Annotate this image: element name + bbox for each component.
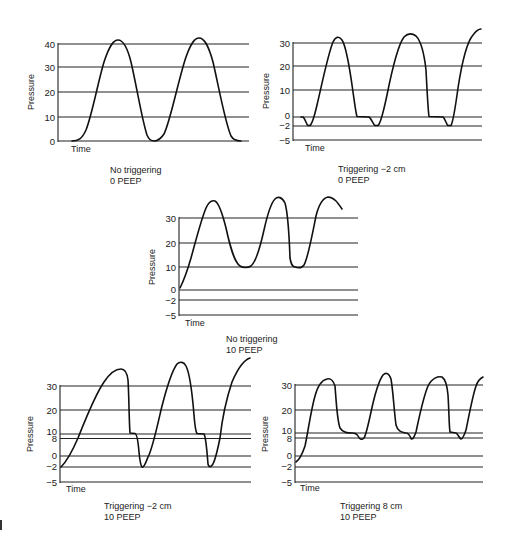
caption-peep: 0 PEEP <box>338 175 405 186</box>
caption-peep: 10 PEEP <box>104 512 171 523</box>
caption-panel-1: No triggering 0 PEEP <box>110 165 162 187</box>
caption-title: Triggering −2 cm <box>338 164 405 175</box>
y-axis-label: Pressure <box>26 74 36 110</box>
caption-title: Triggering 8 cm <box>340 501 402 512</box>
panel-no-triggering-10-peep: 30 20 10 0 −2 −5 Pressure Time <box>147 197 358 328</box>
tick-label: 10 <box>165 262 176 273</box>
tick-label: 0 <box>50 136 55 147</box>
y-axis-label: Pressure <box>261 73 271 109</box>
tick-label: −2 <box>279 120 290 131</box>
tick-label: −5 <box>46 477 57 488</box>
tick-label: 20 <box>46 405 57 416</box>
tick-label: 8 <box>287 433 292 444</box>
tick-label: −5 <box>165 310 176 321</box>
tick-label: 30 <box>281 380 292 391</box>
tick-label: −2 <box>46 461 57 472</box>
tick-label: 30 <box>279 38 290 49</box>
tick-label: 20 <box>165 238 176 249</box>
x-axis-label: Time <box>300 483 320 493</box>
tick-label: −5 <box>279 135 290 146</box>
tick-label: 40 <box>44 39 55 50</box>
caption-panel-3: No triggering 10 PEEP <box>226 334 278 356</box>
tick-label: 8 <box>52 433 57 444</box>
tick-label: 30 <box>44 62 55 73</box>
caption-title: No triggering <box>110 165 162 176</box>
panel-no-triggering-0-peep: 40 30 20 10 0 Pressure Time <box>26 38 249 154</box>
tick-label: 30 <box>165 213 176 224</box>
tick-label: 10 <box>279 85 290 96</box>
panel-triggering-8-10-peep: 30 20 10 8 0 −2 −5 Pressure Time <box>260 373 483 493</box>
pressure-curve <box>72 38 241 141</box>
x-axis-label: Time <box>305 143 325 153</box>
tick-label: 20 <box>44 87 55 98</box>
caption-panel-2: Triggering −2 cm 0 PEEP <box>338 164 405 186</box>
tick-label: −2 <box>165 295 176 306</box>
caption-title: Triggering −2 cm <box>104 501 171 512</box>
panel-triggering-minus2-10-peep: 30 20 10 8 0 −2 −5 Pressure Time <box>25 358 251 494</box>
x-axis-label: Time <box>185 318 205 328</box>
panel-triggering-minus2-0-peep: 30 20 10 0 −2 −5 Pressure Time <box>261 29 482 153</box>
tick-label: 20 <box>281 405 292 416</box>
tick-label: 0 <box>52 450 57 461</box>
tick-label: 10 <box>44 112 55 123</box>
tick-label: 30 <box>46 381 57 392</box>
tick-label: 0 <box>171 284 176 295</box>
x-axis-label: Time <box>66 484 86 494</box>
y-axis-label: Pressure <box>147 249 157 285</box>
caption-title: No triggering <box>226 334 278 345</box>
pressure-curve <box>61 358 250 467</box>
figure: 40 30 20 10 0 Pressure Time 30 20 10 0 −… <box>0 0 510 543</box>
caption-peep: 10 PEEP <box>226 345 278 356</box>
x-axis-label: Time <box>71 144 91 154</box>
page-edge-mark <box>0 520 2 530</box>
caption-peep: 10 PEEP <box>340 512 402 523</box>
tick-label: 0 <box>287 450 292 461</box>
caption-panel-5: Triggering 8 cm 10 PEEP <box>340 501 402 523</box>
caption-peep: 0 PEEP <box>110 176 162 187</box>
y-axis-label: Pressure <box>260 416 270 452</box>
tick-label: −5 <box>281 477 292 488</box>
tick-label: 20 <box>279 61 290 72</box>
caption-panel-4: Triggering −2 cm 10 PEEP <box>104 501 171 523</box>
tick-label: −2 <box>281 461 292 472</box>
pressure-curve <box>296 373 483 462</box>
y-axis-label: Pressure <box>25 416 35 452</box>
